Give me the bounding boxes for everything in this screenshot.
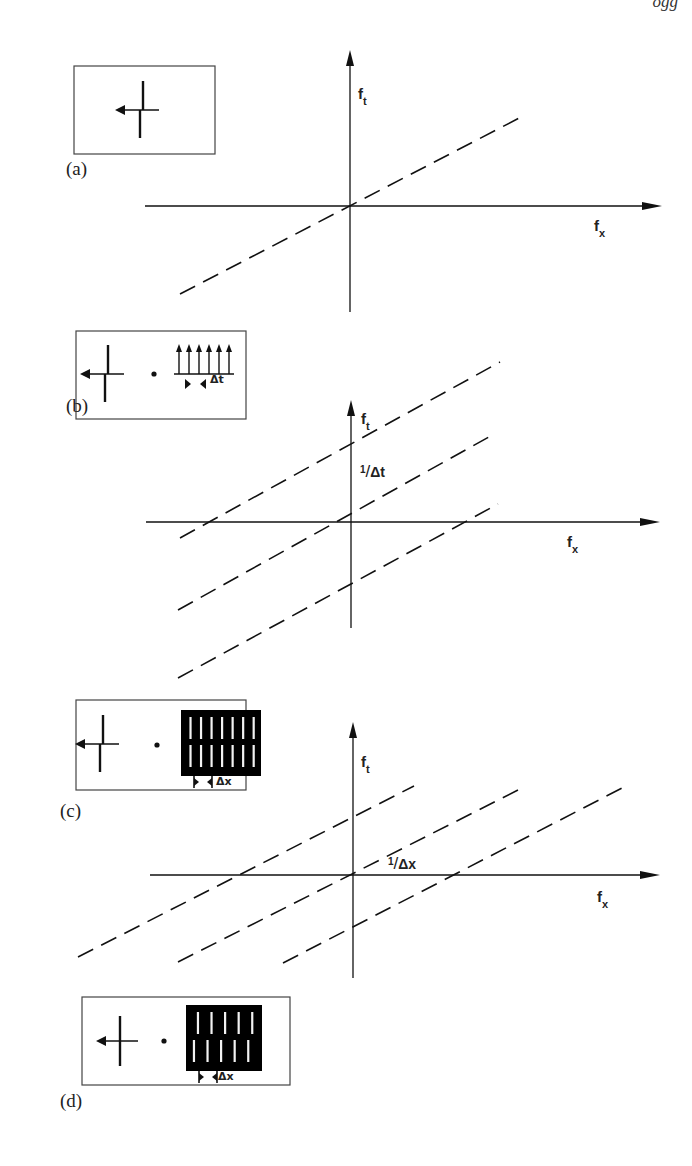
dot-operator-icon bbox=[154, 742, 159, 747]
grating-slit bbox=[221, 717, 223, 739]
figure-canvas bbox=[0, 0, 692, 1166]
spectrum-line-3 bbox=[178, 504, 498, 678]
dot-operator-icon bbox=[161, 1038, 166, 1043]
spacing-marker-right-icon bbox=[199, 1073, 204, 1081]
arrow-left-icon bbox=[80, 369, 90, 379]
arrow-left-icon bbox=[96, 1036, 106, 1046]
arrowhead-icon bbox=[642, 202, 662, 210]
grating-slit bbox=[220, 1040, 222, 1062]
grating-slit bbox=[238, 1012, 240, 1034]
grating-slit bbox=[253, 745, 255, 767]
panel-label-b: (b) bbox=[66, 395, 88, 417]
spacing-marker-right-icon bbox=[194, 778, 199, 786]
grating-slit bbox=[253, 717, 255, 739]
grating-slit bbox=[210, 1012, 212, 1034]
grating-slit bbox=[206, 1040, 208, 1062]
grating-slit bbox=[210, 717, 212, 739]
axes-b bbox=[146, 400, 660, 628]
inset-c bbox=[75, 700, 261, 790]
grating-slit bbox=[232, 745, 234, 767]
panel-b bbox=[76, 331, 660, 678]
grating-slit bbox=[234, 1040, 236, 1062]
arrowhead-icon bbox=[347, 400, 355, 416]
spacing-marker-right-icon bbox=[185, 379, 191, 389]
panel-label-c: (c) bbox=[60, 800, 81, 822]
reciprocal-spacing-label: 1/Δt bbox=[360, 462, 385, 482]
arrowhead-icon bbox=[349, 722, 357, 738]
axes-a bbox=[145, 50, 662, 312]
inset-d bbox=[82, 997, 290, 1085]
grating-slit bbox=[193, 1040, 195, 1062]
grating-slit bbox=[210, 745, 212, 767]
arrowhead-icon bbox=[640, 518, 660, 526]
grating-slit bbox=[242, 745, 244, 767]
grating-slit bbox=[232, 717, 234, 739]
grating-slit bbox=[197, 1012, 199, 1034]
delta-x-label: Δx bbox=[216, 775, 232, 788]
inset-a bbox=[74, 66, 215, 154]
reciprocal-spacing-label: 1/Δx bbox=[388, 854, 416, 874]
grating-slit bbox=[189, 745, 191, 767]
dot-operator-icon bbox=[151, 371, 156, 376]
panel-label-a: (a) bbox=[66, 158, 87, 180]
grating-slit bbox=[251, 1012, 253, 1034]
arrowhead-icon bbox=[346, 50, 354, 66]
spacing-marker-left-icon bbox=[207, 778, 212, 786]
impulse-train-icon bbox=[174, 344, 234, 389]
spectrum-line-1 bbox=[78, 786, 414, 957]
grating-slit bbox=[200, 717, 202, 739]
ft-axis-label: ft bbox=[361, 753, 370, 773]
fx-axis-label: fx bbox=[597, 888, 608, 908]
grating-slit bbox=[221, 745, 223, 767]
spectrum-line-1 bbox=[180, 115, 525, 294]
grating-slit bbox=[189, 717, 191, 739]
panel-d bbox=[82, 997, 290, 1085]
delta-x-label: Δx bbox=[218, 1070, 234, 1083]
grating-slit bbox=[242, 717, 244, 739]
spectrum-line-1 bbox=[180, 362, 500, 538]
grating-slit bbox=[224, 1012, 226, 1034]
spacing-marker-left-icon bbox=[200, 379, 206, 389]
arrowhead-icon bbox=[640, 871, 660, 879]
arrow-left-icon bbox=[115, 105, 125, 115]
fx-axis-label: fx bbox=[594, 217, 605, 237]
ft-axis-label: ft bbox=[358, 85, 367, 105]
panel-a bbox=[74, 50, 662, 312]
ft-axis-label: ft bbox=[361, 410, 370, 430]
grating-slit bbox=[200, 745, 202, 767]
fx-axis-label: fx bbox=[567, 533, 578, 553]
grating-slit bbox=[247, 1040, 249, 1062]
panel-c bbox=[75, 700, 660, 978]
delta-t-label: Δt bbox=[210, 373, 224, 386]
panel-label-d: (d) bbox=[60, 1090, 82, 1112]
spacing-marker-left-icon bbox=[212, 1073, 217, 1081]
